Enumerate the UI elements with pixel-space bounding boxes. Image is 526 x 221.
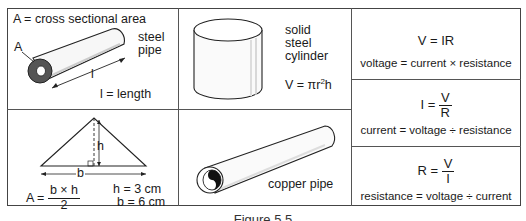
volume-formula-suffix: h (325, 78, 332, 92)
area-formula-numerator: b × h (48, 184, 80, 199)
ohms-law-formula-1: V = IR (351, 34, 521, 48)
area-formula: A = b × h 2 (26, 184, 80, 213)
area-formula-denominator: 2 (61, 199, 68, 213)
length-definition: l = length (100, 88, 151, 102)
base-label: b (76, 167, 85, 181)
ohms-law-words-2: current = voltage ÷ resistance (351, 124, 521, 137)
resistance-formula-lhs: R = (418, 163, 439, 178)
height-label: h (97, 140, 104, 154)
volume-formula-base: V = πr (285, 78, 320, 92)
copper-pipe-illustration (175, 105, 355, 215)
given-base: b = 6 cm (117, 196, 165, 210)
row-divider-right-1 (351, 79, 521, 80)
figure-caption: Figure 5.5 (0, 212, 526, 221)
current-formula-numerator: V (439, 91, 452, 106)
cylinder-volume-formula: V = πr2h (285, 78, 332, 93)
ohms-law-formula-3: R = V I (351, 157, 521, 187)
area-formula-lhs: A = (26, 191, 44, 205)
current-formula-fraction: V R (439, 91, 452, 121)
area-formula-fraction: b × h 2 (48, 184, 80, 213)
ohms-law-words-1: voltage = current × resistance (351, 57, 521, 70)
resistance-formula-fraction: V I (442, 157, 455, 187)
cylinder-label-3: cylinder (285, 50, 328, 64)
row-divider-right-2 (351, 146, 521, 147)
current-formula-lhs: I = (420, 97, 435, 112)
current-formula-denominator: R (441, 106, 450, 120)
ohms-law-words-3: resistance = voltage ÷ current (351, 190, 521, 203)
resistance-formula-numerator: V (442, 157, 455, 172)
length-label: l (91, 68, 94, 82)
copper-pipe-label: copper pipe (268, 178, 333, 192)
resistance-formula-denominator: I (446, 172, 450, 186)
ohms-law-formula-2: I = V R (351, 91, 521, 121)
steel-pipe-illustration (0, 0, 180, 110)
